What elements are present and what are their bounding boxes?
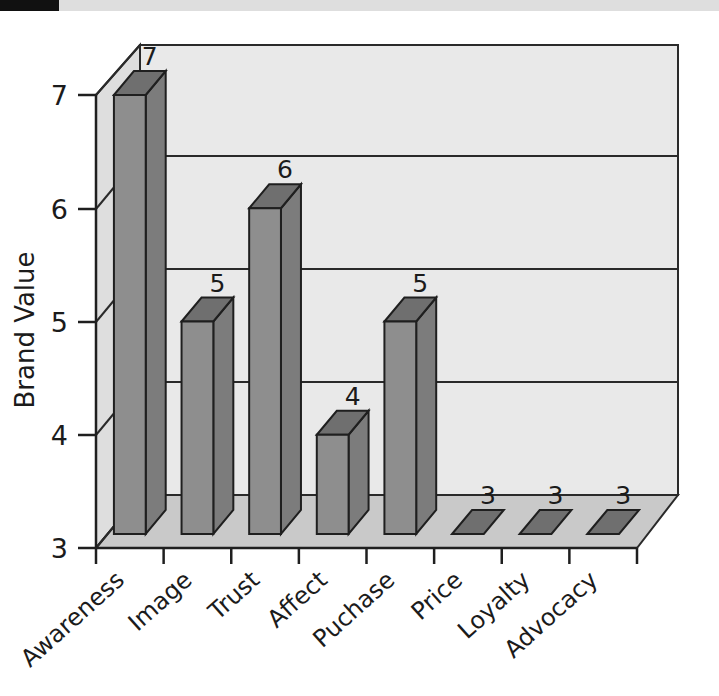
bar-value-label: 4 [345,382,361,411]
category-label-image: Image [123,566,198,637]
category-label-trust: Trust [202,566,265,626]
bar-affect[interactable] [317,411,369,534]
bar-puchase[interactable] [384,298,436,535]
bar-front-face [182,322,214,535]
y-tick-label-4: 4 [51,420,68,451]
bar-side-face [213,298,233,535]
bar-side-face [281,184,301,534]
bar-awareness[interactable] [114,71,166,534]
y-tick-label-6: 6 [51,194,68,225]
bar-side-face [416,298,436,535]
y-tick-label-7: 7 [51,80,68,111]
y-tick-label-5: 5 [51,307,68,338]
bar-side-face [146,71,166,534]
brand-value-3d-bar-chart: 7 6 5 4 3 Brand Value AwarenessImageTrus… [0,0,719,696]
bar-value-label: 3 [548,481,564,510]
bar-image[interactable] [182,298,234,535]
chart-canvas: 7 6 5 4 3 Brand Value AwarenessImageTrus… [0,0,719,696]
bar-value-label: 3 [615,481,631,510]
bar-value-label: 6 [277,155,293,184]
bar-value-label: 7 [142,42,158,71]
x-axis [96,548,637,564]
y-axis [78,95,96,548]
bar-front-face [384,322,416,535]
y-axis-title: Brand Value [10,251,40,408]
bar-value-label: 5 [412,269,428,298]
x-axis-category-labels: AwarenessImageTrustAffectPuchasePriceLoy… [15,566,603,673]
y-tick-label-3: 3 [51,533,68,564]
bar-trust[interactable] [249,184,301,534]
bar-value-label: 3 [480,481,496,510]
category-label-price: Price [406,566,468,626]
chart-page: 7 6 5 4 3 Brand Value AwarenessImageTrus… [0,0,719,696]
bar-value-label: 5 [209,269,225,298]
bar-front-face [317,435,349,534]
category-label-awareness: Awareness [15,566,130,673]
bar-front-face [114,95,146,534]
bar-front-face [249,208,281,534]
x-axis-ticks [96,548,637,564]
